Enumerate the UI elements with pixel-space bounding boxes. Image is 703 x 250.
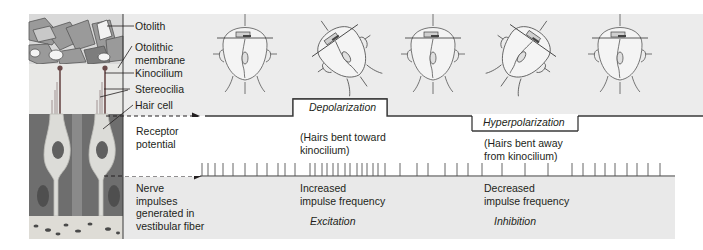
diagram-graphics — [0, 0, 703, 250]
otolith-crystals-icon — [29, 18, 123, 64]
label-inhibition: Inhibition — [494, 215, 536, 228]
head-upright-1-icon — [213, 14, 277, 94]
label-kinocilium: Kinocilium — [135, 67, 183, 80]
otolith-diagram: Otolith Otolithic membrane Kinocilium St… — [0, 0, 703, 250]
label-excitation: Excitation — [310, 215, 356, 228]
label-decreased-frequency: Decreased impulse frequency — [484, 182, 569, 207]
label-hyperpolarization-note: (Hairs bent away from kinocilium) — [484, 137, 563, 162]
label-depolarization: Depolarization — [309, 101, 376, 114]
label-hair-cell: Hair cell — [135, 99, 173, 112]
head-tilt-forward-icon — [295, 3, 393, 105]
label-increased-frequency: Increased impulse frequency — [300, 182, 385, 207]
head-upright-2-icon — [401, 14, 465, 94]
head-upright-3-icon — [588, 14, 652, 94]
label-otolith: Otolith — [135, 20, 165, 33]
label-otolithic-membrane: Otolithic membrane — [135, 41, 185, 66]
label-stereocilia: Stereocilia — [135, 83, 184, 96]
hair-cell-illustration — [29, 14, 123, 239]
head-orientation-figures — [213, 3, 652, 105]
head-tilt-backward-icon — [475, 3, 573, 105]
label-receptor-potential: Receptor potential — [136, 125, 179, 150]
label-depolarization-note: (Hairs bent toward kinocilium) — [300, 131, 386, 156]
label-nerve-impulses: Nerve impulses generated in vestibular f… — [136, 182, 204, 232]
label-hyperpolarization: Hyperpolarization — [483, 116, 565, 129]
